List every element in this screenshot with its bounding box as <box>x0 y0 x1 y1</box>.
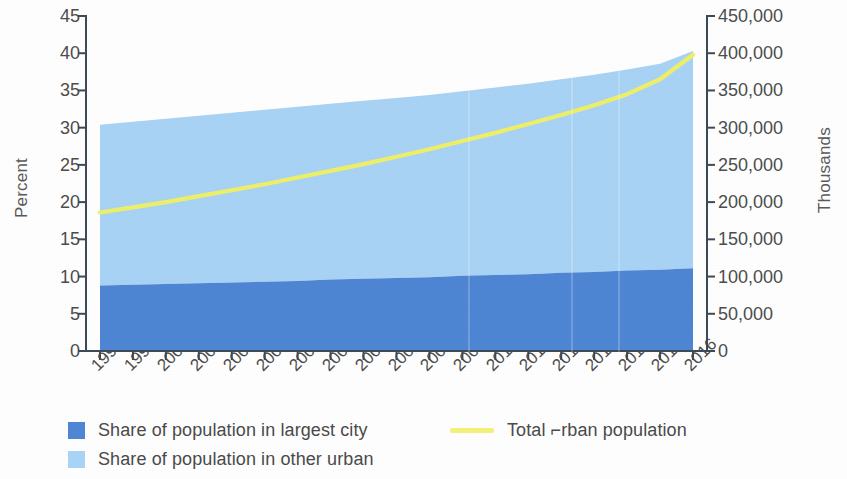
legend-swatch-other-urban <box>68 451 85 468</box>
legend-label-other-urban: Share of population in other urban <box>98 449 374 470</box>
legend-item-total-urban: Total ⌐rban population <box>450 420 687 441</box>
legend-item-other-urban: Share of population in other urban <box>68 449 374 470</box>
legend-item-largest-city: Share of population in largest city <box>68 420 368 441</box>
legend-label-largest-city: Share of population in largest city <box>98 420 368 441</box>
plot-area <box>0 0 847 479</box>
area-other-urban <box>100 51 693 285</box>
legend-label-total-urban: Total ⌐rban population <box>507 420 687 441</box>
legend-line-total-urban <box>450 428 494 433</box>
chart-legend: Share of population in largest city Shar… <box>0 418 847 479</box>
legend-swatch-largest-city <box>68 422 85 439</box>
chart-figure: Percent Thousands 454035302520151050 450… <box>0 0 847 479</box>
